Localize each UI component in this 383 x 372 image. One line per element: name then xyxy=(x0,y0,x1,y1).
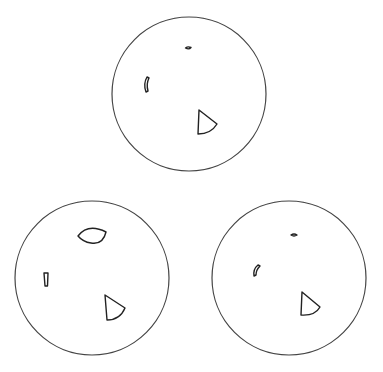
circle-bottom-left xyxy=(15,201,169,355)
circle-bottom-right xyxy=(212,201,366,355)
circle-top xyxy=(112,17,266,171)
blob-shape xyxy=(186,47,192,49)
arc-shape xyxy=(254,265,260,276)
sector-shape xyxy=(105,295,125,320)
blob-shape xyxy=(291,234,297,236)
rect-tab-shape xyxy=(44,273,48,286)
eye-shape xyxy=(78,228,106,243)
circle-outline xyxy=(212,201,366,355)
sector-shape xyxy=(301,292,320,315)
circle-outline xyxy=(112,17,266,171)
diagram-canvas xyxy=(0,0,383,372)
circle-outline xyxy=(15,201,169,355)
arc-shape xyxy=(145,77,149,92)
sector-shape xyxy=(198,110,217,134)
